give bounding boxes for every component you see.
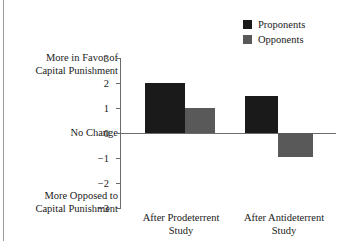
y-tick-label-3: 3	[104, 53, 109, 64]
x-axis-category-antideterrent-line2: Study	[232, 225, 336, 238]
y-tick-label-minus-2: −2	[98, 178, 109, 189]
y-tick-1: 1	[116, 108, 121, 109]
y-axis-annotation-bottom-line1: More Opposed to	[35, 190, 118, 203]
y-tick-label-0: 0	[104, 128, 109, 139]
bar-proponents-antideterrent	[245, 96, 278, 134]
bar-chart-figure: Proponents Opponents More in Favor of Ca…	[0, 0, 346, 241]
bar-opponents-prodeterrent	[185, 108, 215, 133]
legend-item-opponents: Opponents	[243, 33, 343, 46]
y-tick-minus-1: −1	[116, 158, 121, 159]
legend-label-opponents: Opponents	[258, 34, 304, 45]
y-tick-minus-3: −3	[116, 208, 121, 209]
bar-opponents-antideterrent	[278, 133, 313, 157]
y-tick-minus-2: −2	[116, 183, 121, 184]
page-margin-rule	[3, 0, 4, 241]
plot-area: 3 2 1 0 −1 −2 −3	[120, 58, 336, 210]
legend-swatch-opponents	[243, 35, 252, 44]
chart-legend: Proponents Opponents	[243, 18, 343, 48]
x-axis-category-antideterrent-line1: After Antideterrent	[232, 212, 336, 225]
x-axis-category-antideterrent: After Antideterrent Study	[232, 212, 336, 237]
y-axis-annotation-zero: No Change	[70, 127, 118, 140]
y-tick-label-minus-1: −1	[98, 153, 109, 164]
legend-item-proponents: Proponents	[243, 18, 343, 31]
x-axis-category-prodeterrent-line1: After Prodeterrent	[131, 212, 231, 225]
x-axis-category-prodeterrent: After Prodeterrent Study	[131, 212, 231, 237]
bar-proponents-prodeterrent	[145, 83, 185, 133]
y-tick-label-2: 2	[104, 78, 109, 89]
x-axis-category-prodeterrent-line2: Study	[131, 225, 231, 238]
y-tick-label-minus-3: −3	[98, 203, 109, 214]
y-tick-label-1: 1	[104, 103, 109, 114]
y-tick-3: 3	[116, 58, 121, 59]
y-axis-annotation-top-line2: Capital Punishment	[35, 65, 118, 78]
y-tick-2: 2	[116, 83, 121, 84]
legend-label-proponents: Proponents	[258, 19, 305, 30]
legend-swatch-proponents	[243, 20, 252, 29]
